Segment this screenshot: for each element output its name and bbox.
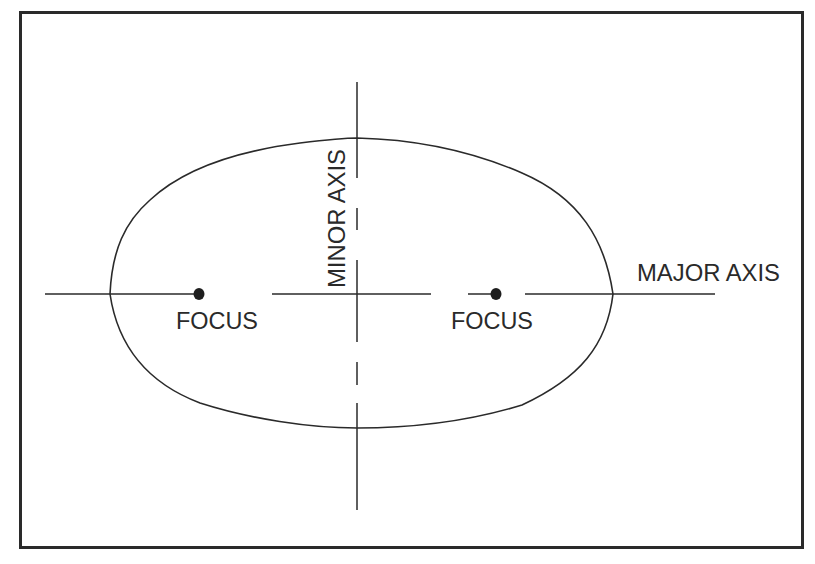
focus-point-left <box>194 288 205 300</box>
focus-point-right <box>491 288 502 300</box>
major-axis-label: MAJOR AXIS <box>637 260 780 286</box>
focus-label-left: FOCUS <box>176 308 258 334</box>
ellipse-diagram: FOCUS FOCUS MAJOR AXIS MINOR AXIS <box>0 0 815 564</box>
minor-axis-label: MINOR AXIS <box>324 149 350 288</box>
focus-label-right: FOCUS <box>451 308 533 334</box>
ellipse-outline <box>110 138 613 428</box>
